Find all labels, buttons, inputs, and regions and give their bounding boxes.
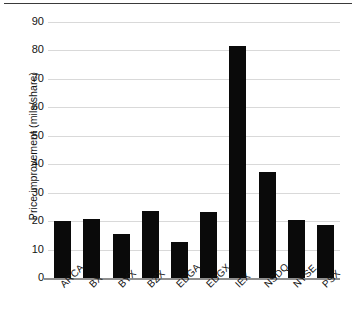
gridline: [48, 50, 340, 51]
y-tick-label: 80: [14, 44, 44, 55]
y-tick-label: 90: [14, 16, 44, 27]
y-tick-label: 50: [14, 130, 44, 141]
gridline: [48, 79, 340, 80]
gridline: [48, 22, 340, 23]
bar-chart-figure: Price improvement (mils/share) 010203040…: [0, 0, 355, 328]
gridline: [48, 107, 340, 108]
y-tick-label: 40: [14, 158, 44, 169]
gridline: [48, 136, 340, 137]
y-tick-label: 60: [14, 101, 44, 112]
gridline: [48, 164, 340, 165]
y-tick-label: 30: [14, 187, 44, 198]
bar-bzx: [142, 211, 159, 278]
y-tick-label: 70: [14, 73, 44, 84]
bar-arca: [54, 221, 71, 278]
bar-iex: [229, 46, 246, 278]
y-tick-label: 10: [14, 244, 44, 255]
y-tick-label: 20: [14, 215, 44, 226]
plot-area: [48, 22, 340, 278]
bar-edgx: [200, 212, 217, 278]
y-tick-label: 0: [14, 272, 44, 283]
gridline: [48, 193, 340, 194]
bar-nsdq: [259, 172, 276, 278]
